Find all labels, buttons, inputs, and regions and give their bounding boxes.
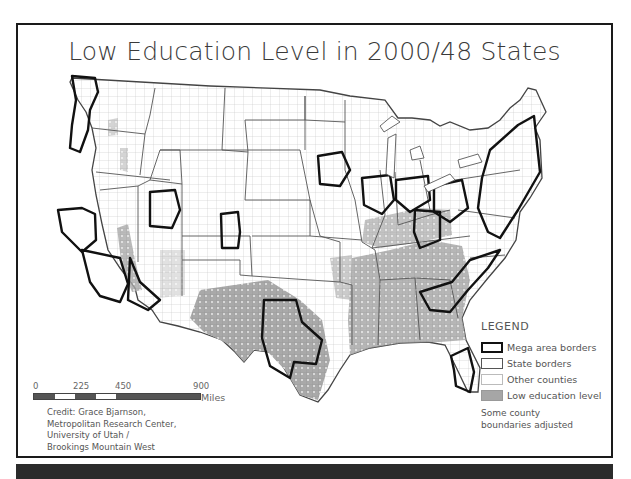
low-education-swatch-icon: [481, 390, 503, 401]
legend-item-low-education: Low education level: [481, 387, 611, 403]
legend-label: Other counties: [507, 374, 577, 385]
state-border-swatch-icon: [481, 358, 503, 369]
legend-label: Mega area borders: [507, 342, 596, 353]
scale-tick: 450: [115, 381, 131, 391]
legend-note: Some county boundaries adjusted: [481, 407, 611, 431]
legend-item-mega-area: Mega area borders: [481, 339, 611, 355]
scale-tick: 900: [193, 381, 209, 391]
scale-tick: 225: [73, 381, 89, 391]
scale-units: Miles: [201, 392, 225, 403]
legend: LEGEND Mega area borders State borders O…: [481, 320, 611, 431]
legend-item-state-borders: State borders: [481, 355, 611, 371]
legend-heading: LEGEND: [481, 320, 611, 333]
legend-label: State borders: [507, 358, 571, 369]
scale-ticks: 0 225 450 900: [33, 381, 223, 393]
credit: Credit: Grace Bjarnson, Metropolitan Res…: [47, 407, 176, 453]
legend-label: Low education level: [507, 390, 601, 401]
scale-bar-graphic: [33, 393, 201, 400]
mega-area-swatch-icon: [481, 342, 503, 353]
legend-item-other-counties: Other counties: [481, 371, 611, 387]
county-swatch-icon: [481, 374, 503, 385]
bottom-band: [16, 464, 613, 479]
scale-tick: 0: [33, 381, 38, 391]
scale-bar: 0 225 450 900 Miles: [33, 381, 223, 400]
